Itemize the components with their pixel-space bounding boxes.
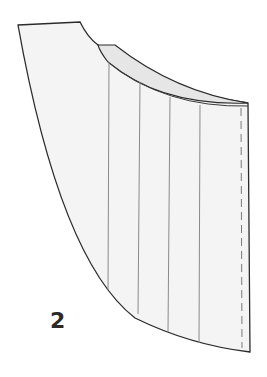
pattern-piece-diagram bbox=[0, 0, 267, 377]
figure-number-label: 2 bbox=[50, 310, 65, 332]
